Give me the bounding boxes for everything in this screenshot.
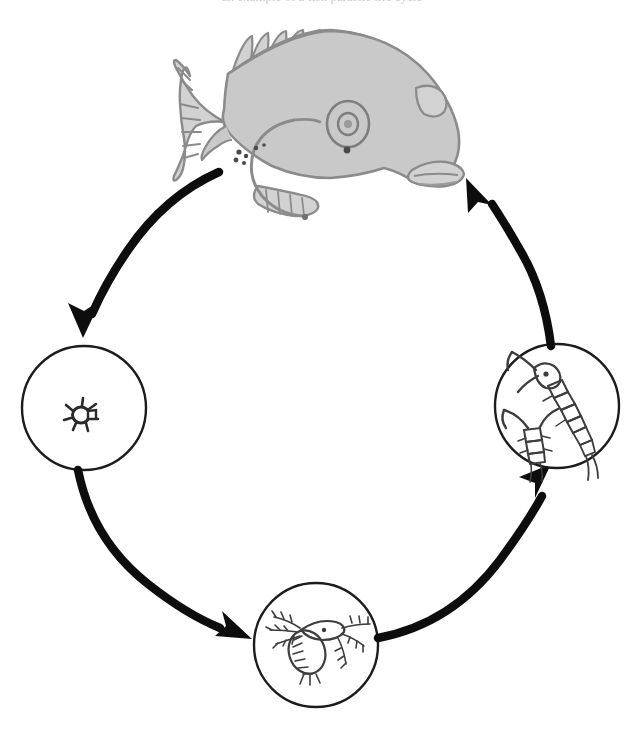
- arrow-nauplius-to-copepod: [378, 464, 551, 638]
- stage-node-nauplius: [254, 583, 378, 707]
- arrow-fish-to-egg: [68, 172, 219, 338]
- diagram-page: an example of a fish parasite life cycle…: [0, 0, 644, 740]
- arrow-copepod-to-fish: [466, 178, 551, 346]
- stage-node-egg: [22, 346, 146, 470]
- stage-node-copepod: [495, 344, 619, 482]
- fish-icon: [173, 30, 464, 220]
- arrow-egg-to-nauplius: [78, 470, 252, 639]
- life-cycle-diagram: [0, 0, 644, 740]
